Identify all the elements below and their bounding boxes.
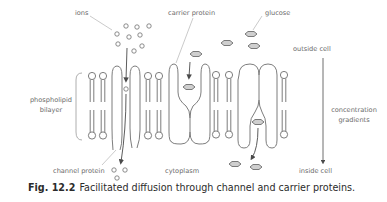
- channel-protein-leader: [102, 150, 116, 165]
- ion: [124, 24, 128, 28]
- label-inside-cell: inside cell: [299, 168, 332, 175]
- ions-leader: [90, 16, 112, 30]
- label-concentration-gradients: concentration gradients: [324, 107, 384, 123]
- ion: [140, 44, 144, 48]
- label-channel-protein: channel protein: [53, 168, 105, 175]
- label-concentration-line2: gradients: [324, 117, 384, 124]
- glucose-outside: [190, 52, 202, 57]
- label-phospholipid-line1: phospholipid: [26, 97, 76, 104]
- caption-text: Facilitated diffusion through channel an…: [79, 182, 355, 193]
- caption-number: Fig. 12.2: [28, 182, 75, 193]
- ion: [116, 42, 120, 46]
- glucose-outside: [221, 41, 233, 46]
- label-ions: ions: [75, 10, 88, 17]
- carrier-protein-leader: [176, 18, 193, 63]
- ions-inside: [112, 168, 127, 180]
- figure-caption: Fig. 12.2Facilitated diffusion through c…: [28, 183, 355, 193]
- label-cytoplasm: cytoplasm: [165, 168, 199, 175]
- ion: [123, 168, 127, 172]
- ion: [132, 49, 136, 53]
- phospholipid: [99, 72, 106, 139]
- glucose-inside: [229, 162, 241, 167]
- ion-entry-arrow: [126, 48, 127, 80]
- ion-in-channel: [124, 87, 128, 91]
- glucose-leader: [253, 16, 262, 30]
- glucose-inside: [250, 165, 262, 170]
- phospholipid: [280, 71, 287, 138]
- ion: [115, 176, 119, 180]
- phospholipid: [225, 71, 232, 138]
- phospholipid: [212, 71, 219, 138]
- ion: [135, 25, 139, 29]
- glucose-in-carrier: [183, 85, 195, 90]
- glucose-outside: [245, 32, 257, 37]
- diagram: ions carrier protein glucose outside cel…: [0, 0, 387, 202]
- label-phospholipid-bilayer: phospholipid bilayer: [26, 97, 76, 113]
- label-glucose: glucose: [265, 10, 290, 17]
- phospholipid: [88, 72, 95, 139]
- label-phospholipid-line2: bilayer: [26, 107, 76, 114]
- bilayer-brace: [76, 73, 82, 140]
- glucose-in-carrier: [252, 120, 264, 125]
- label-concentration-line1: concentration: [324, 107, 384, 114]
- glucose-molecules: [183, 32, 264, 170]
- ion: [112, 168, 116, 172]
- leader-lines: [90, 16, 262, 165]
- ions-outside: [115, 24, 151, 53]
- glucose-outside: [248, 44, 260, 49]
- ion: [147, 24, 151, 28]
- glucose-exit-arrow: [252, 128, 258, 158]
- ion: [127, 35, 131, 39]
- ion: [138, 33, 142, 37]
- phospholipid: [144, 72, 151, 139]
- phospholipid: [155, 72, 162, 139]
- label-carrier-protein: carrier protein: [168, 10, 215, 17]
- label-outside-cell: outside cell: [293, 46, 331, 53]
- glucose-entry-arrow: [189, 62, 190, 77]
- ion: [115, 32, 119, 36]
